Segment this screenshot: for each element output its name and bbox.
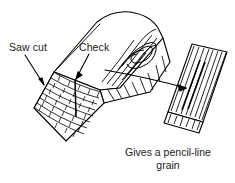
figure-container: Saw cut Check Gives a pencil-line grain <box>0 0 235 183</box>
log-solid <box>34 12 170 141</box>
saw-cut-label: Saw cut <box>9 41 47 53</box>
caption-line-1: Gives a pencil-line <box>108 146 228 159</box>
caption-line-2: grain <box>108 159 228 172</box>
figure-caption: Gives a pencil-line grain <box>108 146 228 172</box>
saw-cut-arrowhead <box>39 78 44 85</box>
check-label: Check <box>79 41 109 53</box>
check-crack-line <box>75 79 76 117</box>
